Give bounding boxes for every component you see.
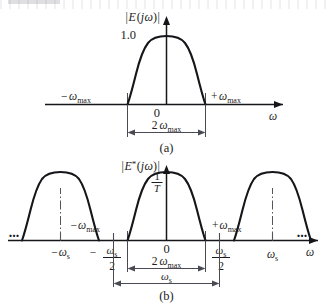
svg-text:−ωmax: −ωmax [61,90,91,105]
panel-b-label-omega-s-half: ωs 2 [212,244,230,272]
panel-a-y-axis-label: |E(jω)| [126,10,160,24]
panel-b-origin-label: 0 [163,242,169,256]
svg-text:+ωmax: +ωmax [211,90,241,105]
panel-b-ellipsis-left: ... [9,225,20,240]
svg-text:−ωmax: −ωmax [71,219,100,234]
svg-text:−ωs: −ωs [51,246,70,261]
panel-a-right-band-label: +ωmax [211,90,241,105]
svg-text:T: T [154,183,161,194]
panel-b-y-axis [163,165,170,241]
spectrum-figure: 1.0 |E(jω)| 0 −ωmax +ωmax [0,0,332,307]
y-axis-arrowhead [163,16,170,25]
panel-b-y-axis-label: |E*(jω)| [122,159,160,173]
svg-text:2ωmax: 2ωmax [152,119,182,134]
panel-a-y-axis [163,16,170,105]
panel-b-left-band-label: −ωmax [71,219,100,234]
svg-text:ωs: ωs [161,270,172,285]
panel-a-caption: (a) [160,141,174,155]
svg-text:ωs: ωs [267,248,278,263]
panel-a: 1.0 |E(jω)| 0 −ωmax +ωmax [45,10,283,155]
panel-b-ellipsis-right: ... [297,225,308,240]
panel-a-bandwidth-dimension: 2ωmax [128,105,206,138]
svg-text:+ωmax: +ωmax [212,219,241,234]
panel-b-x-axis-label: ω [306,246,314,258]
panel-b-label-minus-omega-s-half: − ωs 2 [90,244,121,272]
svg-text:ωs: ωs [107,244,118,259]
panel-a-x-axis-label: ω [269,110,277,122]
panel-a-origin-label: 0 [154,106,160,120]
x-axis-arrowhead [274,101,283,108]
svg-text:|E*(jω)|: |E*(jω)| [122,159,160,173]
panel-b-label-omega-s: ωs [267,248,278,263]
svg-text:2ωmax: 2ωmax [152,255,182,270]
panel-b-right-band-label: +ωmax [212,219,241,234]
panel-a-peak-label: 1.0 [120,28,136,42]
svg-text:|E(jω)|: |E(jω)| [126,10,160,24]
figure-canvas: 1.0 |E(jω)| 0 −ωmax +ωmax [0,0,332,307]
svg-text:−: − [90,246,97,258]
svg-text:ωs: ωs [216,244,227,259]
panel-b: 1 T |E*(jω)| 0 ... ... −ωs [8,159,318,303]
panel-b-caption: (b) [159,289,174,303]
panel-a-left-band-label: −ωmax [61,90,91,105]
svg-text:2: 2 [109,260,115,272]
panel-b-label-minus-omega-s: −ωs [51,246,70,261]
